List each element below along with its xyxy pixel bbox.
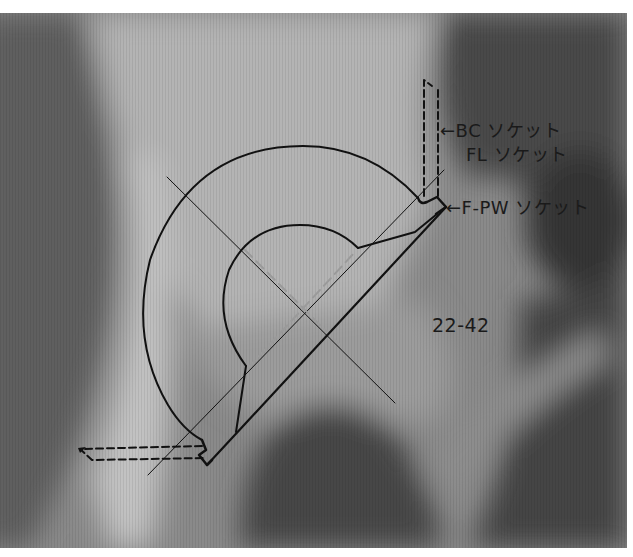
arrow-left-icon: ← — [440, 120, 456, 141]
template-code-label: 22-42 — [432, 314, 490, 336]
bc-socket-label: ←BC ソケット — [440, 116, 561, 142]
axis-line-1 — [167, 177, 395, 403]
rim-line — [207, 207, 446, 465]
outer-arc — [143, 146, 418, 440]
bottom-socket-dashed — [80, 446, 206, 460]
fl-socket-text: FL ソケット — [466, 144, 568, 165]
template-code-text: 22-42 — [432, 314, 490, 336]
fpw-socket-text: F-PW ソケット — [462, 197, 590, 218]
bc-socket-dashed — [424, 80, 438, 198]
fpw-socket-label: ←F-PW ソケット — [446, 193, 589, 219]
bc-socket-text: BC ソケット — [456, 120, 562, 141]
axis-line-2 — [148, 170, 444, 475]
fl-socket-label: FL ソケット — [466, 140, 568, 166]
socket-template-overlay — [0, 0, 633, 557]
arrow-left-icon: ← — [446, 197, 462, 218]
